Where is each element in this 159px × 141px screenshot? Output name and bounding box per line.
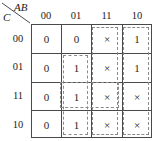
cell-r2c2[interactable]: × bbox=[92, 83, 122, 110]
cell-r1c0[interactable]: 0 bbox=[32, 54, 61, 82]
column-header-1: 01 bbox=[61, 8, 91, 23]
column-header-0: 00 bbox=[31, 8, 61, 23]
cell-r3c3[interactable]: × bbox=[123, 111, 151, 138]
cell-r2c0[interactable]: 0 bbox=[32, 83, 61, 110]
cell-r1c1[interactable]: 1 bbox=[62, 54, 91, 82]
cell-r0c2[interactable]: × bbox=[92, 25, 122, 53]
cell-r3c0[interactable]: 0 bbox=[32, 111, 61, 138]
cell-r3c1[interactable]: 1 bbox=[62, 111, 91, 138]
cell-r0c0[interactable]: 0 bbox=[32, 25, 61, 53]
cell-r2c3[interactable]: × bbox=[123, 83, 151, 110]
row-header-3: 10 bbox=[6, 110, 30, 138]
cell-r3c2[interactable]: × bbox=[92, 111, 122, 138]
kmap-container: AB C 00 01 11 10 00 01 11 10 0 0 × 1 0 1… bbox=[0, 0, 159, 141]
column-variable-label: AB bbox=[14, 1, 27, 13]
kmap-grid: 0 0 × 1 0 1 × 1 0 1 × × 0 1 × × bbox=[31, 24, 152, 138]
cell-r0c1[interactable]: 0 bbox=[62, 25, 91, 53]
cell-r0c3[interactable]: 1 bbox=[123, 25, 151, 53]
column-header-2: 11 bbox=[91, 8, 122, 23]
row-variable-label: C bbox=[3, 11, 10, 23]
kmap-corner-header: AB C bbox=[0, 0, 31, 24]
row-header-0: 00 bbox=[6, 24, 30, 52]
cell-r2c1[interactable]: 1 bbox=[62, 83, 91, 110]
column-header-3: 10 bbox=[122, 8, 152, 23]
row-header-2: 11 bbox=[6, 81, 30, 109]
cell-r1c3[interactable]: 1 bbox=[123, 54, 151, 82]
cell-r1c2[interactable]: × bbox=[92, 54, 122, 82]
row-header-1: 01 bbox=[6, 52, 30, 80]
